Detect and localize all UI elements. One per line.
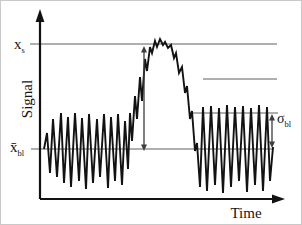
baseline-sd-base: σ — [277, 111, 285, 126]
signal-noise-diagram: xs x̄bl σbl Signal Time — [0, 0, 302, 225]
y-axis-arrowhead — [36, 9, 45, 22]
sigma-arrow — [269, 114, 275, 148]
x-axis-label: Time — [230, 206, 261, 221]
baseline-mean-base: x̄ — [10, 139, 18, 155]
annotation-arrows — [141, 46, 275, 151]
signal-trace — [44, 39, 273, 193]
baseline-mean-label: x̄bl — [10, 140, 24, 155]
x-axis-arrowhead — [272, 195, 285, 204]
signal-level-subscript: s — [22, 45, 25, 55]
baseline-mean-subscript: bl — [18, 148, 25, 158]
baseline-sd-label: σbl — [277, 112, 291, 126]
signal-level-label: xs — [14, 37, 25, 52]
y-axis-label: Signal — [20, 80, 35, 118]
baseline-sd-subscript: bl — [285, 119, 292, 129]
plot-area — [1, 1, 302, 225]
signal-level-base: x — [14, 36, 22, 52]
